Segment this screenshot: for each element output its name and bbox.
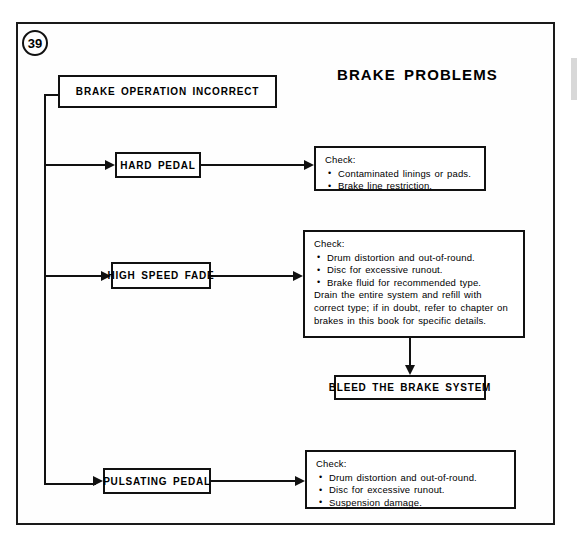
connector-pulsating-pedal-to-check (211, 480, 298, 482)
check-item: Brake fluid for recommended type. (314, 277, 514, 290)
check-item: Disc for excessive runout. (314, 264, 514, 277)
check-heading: Check: (316, 458, 505, 471)
node-bleed-the-brake-system: BLEED THE BRAKE SYSTEM (334, 375, 486, 400)
check-box-hard-pedal: Check: Contaminated linings or pads. Bra… (314, 146, 486, 191)
node-label: HARD PEDAL (120, 160, 196, 171)
check-item: Drum distortion and out-of-round. (314, 252, 514, 265)
arrowhead-right-icon (304, 160, 314, 170)
node-label: PULSATING PEDAL (103, 476, 211, 487)
connector-trunk-to-pulsating-pedal (44, 483, 96, 485)
arrowhead-right-icon (293, 271, 303, 281)
page-number-badge: 39 (22, 30, 48, 56)
check-item: Contaminated linings or pads. (325, 168, 475, 181)
arrowhead-right-icon (105, 160, 115, 170)
connector-trunk-to-high-speed-fade (44, 275, 104, 277)
node-pulsating-pedal: PULSATING PEDAL (103, 468, 211, 494)
connector-trunk-to-hard-pedal (44, 164, 108, 166)
connector-high-speed-fade-to-check (211, 275, 296, 277)
connector-trunk-spine (44, 94, 46, 485)
check-item: Brake line restriction. (325, 180, 475, 193)
check-item-list: Drum distortion and out-of-round. Disc f… (314, 252, 514, 290)
page-number-text: 39 (28, 37, 42, 50)
check-item: Disc for excessive runout. (316, 484, 505, 497)
check-box-pulsating-pedal: Check: Drum distortion and out-of-round.… (305, 450, 516, 509)
connector-hard-pedal-to-check (201, 164, 307, 166)
arrowhead-down-icon (405, 365, 415, 375)
check-note: Drain the entire system and refill with … (314, 289, 514, 327)
node-brake-operation-incorrect: BRAKE OPERATION INCORRECT (58, 75, 277, 108)
scan-edge-artifact (571, 58, 577, 100)
check-item: Suspension damage. (316, 497, 505, 510)
node-label: BLEED THE BRAKE SYSTEM (329, 382, 492, 393)
diagram-title: BRAKE PROBLEMS (337, 66, 498, 83)
node-label: BRAKE OPERATION INCORRECT (76, 86, 259, 97)
arrowhead-right-icon (295, 476, 305, 486)
node-label: HIGH SPEED FADE (107, 270, 214, 281)
arrowhead-right-icon (93, 476, 103, 486)
node-hard-pedal: HARD PEDAL (115, 152, 201, 178)
check-box-high-speed-fade: Check: Drum distortion and out-of-round.… (303, 230, 525, 338)
check-item: Drum distortion and out-of-round. (316, 472, 505, 485)
connector-check-to-bleed (409, 338, 411, 368)
check-item-list: Contaminated linings or pads. Brake line… (325, 168, 475, 193)
check-item-list: Drum distortion and out-of-round. Disc f… (316, 472, 505, 510)
check-heading: Check: (325, 154, 475, 167)
check-heading: Check: (314, 238, 514, 251)
node-high-speed-fade: HIGH SPEED FADE (111, 262, 211, 289)
